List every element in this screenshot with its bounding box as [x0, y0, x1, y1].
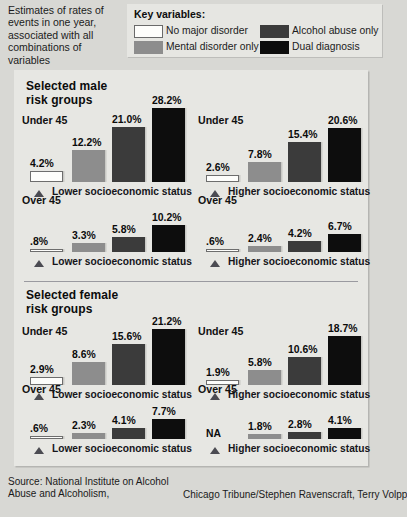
bar-group: Over 45.6%2.3%4.1%7.7%Lower socioeconomi…	[20, 377, 192, 459]
bars-row: .6%2.3%4.1%7.7%	[20, 383, 192, 439]
bar-value-label: 10.6%	[288, 344, 328, 355]
intro-text: Estimates of rates of events in one year…	[8, 4, 120, 66]
bar-value-label: 20.6%	[328, 115, 368, 126]
legend-title: Key variables:	[134, 8, 205, 20]
bar-value-label: 3.3%	[72, 230, 112, 241]
bar-no-major-disorder	[30, 249, 63, 252]
bar-slot-dual-diagnosis: 10.2%	[152, 194, 185, 252]
bar-mental-disorder-only	[248, 246, 281, 252]
bar-slot-no-major-disorder: 1.9%	[206, 313, 239, 385]
bar-slot-alcohol-abuse-only: 15.4%	[288, 104, 321, 182]
bar-slot-dual-diagnosis: 18.7%	[328, 313, 361, 385]
triangle-marker-icon	[210, 260, 220, 267]
bar-slot-mental-disorder-only: 7.8%	[248, 104, 281, 182]
bar-value-label: 2.4%	[248, 233, 288, 244]
bar-value-label: 15.6%	[112, 331, 152, 342]
bar-slot-no-major-disorder: .8%	[30, 194, 63, 252]
bar-value-label: .6%	[206, 236, 246, 247]
bar-alcohol-abuse-only	[112, 127, 145, 182]
bar-group: Under 452.6%7.8%15.4%20.6%Higher socioec…	[196, 98, 368, 202]
bar-mental-disorder-only	[72, 243, 105, 252]
bar-value-label: 7.8%	[248, 149, 288, 160]
bar-slot-dual-diagnosis: 4.1%	[328, 383, 361, 439]
bar-value-label: 4.1%	[328, 415, 368, 426]
bar-slot-dual-diagnosis: 28.2%	[152, 104, 185, 182]
triangle-marker-icon	[34, 447, 44, 454]
axis-caption: Lower socioeconomic status	[20, 443, 192, 457]
section-title-line1: Selected male	[26, 79, 107, 93]
bar-group: Under 454.2%12.2%21.0%28.2%Lower socioec…	[20, 98, 192, 202]
bars-row: 4.2%12.2%21.0%28.2%	[20, 104, 192, 182]
bar-slot-mental-disorder-only: 8.6%	[72, 313, 105, 385]
bar-value-label: 15.4%	[288, 129, 328, 140]
bar-slot-no-major-disorder: .6%	[206, 194, 239, 252]
bar-dual-diagnosis	[152, 225, 185, 252]
legend-swatch-dark	[260, 25, 289, 38]
bar-value-label: 1.8%	[248, 421, 288, 432]
bars-row: NA1.8%2.8%4.1%	[196, 383, 368, 439]
legend-swatch-black	[260, 41, 289, 54]
bar-value-na: NA	[206, 428, 221, 439]
bar-slot-alcohol-abuse-only: 2.8%	[288, 383, 321, 439]
axis-caption-label: Higher socioeconomic status	[228, 256, 370, 267]
axis-caption-label: Lower socioeconomic status	[52, 443, 192, 454]
legend-box: Key variables: No major disorder Mental …	[127, 4, 382, 57]
bar-slot-dual-diagnosis: 7.7%	[152, 383, 185, 439]
legend-label: Mental disorder only	[166, 40, 259, 53]
bar-value-label: 28.2%	[152, 95, 192, 106]
bar-slot-mental-disorder-only: 2.4%	[248, 194, 281, 252]
bar-alcohol-abuse-only	[112, 428, 145, 439]
bar-slot-dual-diagnosis: 21.2%	[152, 313, 185, 385]
source-note: Source: National Institute on Alcohol Ab…	[8, 476, 183, 500]
bar-group: Over 45.8%3.3%5.8%10.2%Lower socioeconom…	[20, 188, 192, 272]
bar-slot-alcohol-abuse-only: 15.6%	[112, 313, 145, 385]
bar-dual-diagnosis	[328, 128, 361, 182]
bar-group: Over 45NA1.8%2.8%4.1%Higher socioeconomi…	[196, 377, 368, 459]
bar-value-label: 5.8%	[112, 224, 152, 235]
bar-value-label: 2.6%	[206, 162, 246, 173]
bar-dual-diagnosis	[328, 234, 361, 252]
axis-caption: Higher socioeconomic status	[196, 443, 368, 457]
chart-panel: Selected male risk groups Selected femal…	[14, 70, 368, 466]
triangle-marker-icon	[34, 260, 44, 267]
footer-area: Source: National Institute on Alcohol Ab…	[0, 472, 391, 517]
bar-value-label: 2.3%	[72, 420, 112, 431]
bar-alcohol-abuse-only	[112, 237, 145, 252]
bar-alcohol-abuse-only	[288, 142, 321, 182]
axis-caption: Higher socioeconomic status	[196, 256, 368, 270]
bar-value-label: 21.2%	[152, 316, 192, 327]
bars-row: .8%3.3%5.8%10.2%	[20, 194, 192, 252]
bar-value-label: .8%	[30, 236, 70, 247]
bars-row: 1.9%5.8%10.6%18.7%	[196, 313, 368, 385]
bar-value-label: 12.2%	[72, 137, 112, 148]
bar-slot-mental-disorder-only: 3.3%	[72, 194, 105, 252]
bar-slot-mental-disorder-only: 12.2%	[72, 104, 105, 182]
bar-value-label: 21.0%	[112, 114, 152, 125]
bar-value-label: .6%	[30, 423, 70, 434]
bar-slot-dual-diagnosis: 20.6%	[328, 104, 361, 182]
legend-label: No major disorder	[166, 24, 248, 37]
header-area: Estimates of rates of events in one year…	[0, 0, 391, 66]
bar-value-label: 18.7%	[328, 323, 368, 334]
bar-slot-no-major-disorder: NA	[206, 383, 239, 439]
bar-value-label: 7.7%	[152, 406, 192, 417]
bar-dual-diagnosis	[152, 108, 185, 182]
bar-no-major-disorder	[30, 436, 63, 439]
bar-slot-alcohol-abuse-only: 21.0%	[112, 104, 145, 182]
bar-mental-disorder-only	[72, 150, 105, 182]
bar-slot-no-major-disorder: 4.2%	[30, 104, 63, 182]
bar-slot-dual-diagnosis: 6.7%	[328, 194, 361, 252]
bar-slot-mental-disorder-only: 5.8%	[248, 313, 281, 385]
section-divider	[24, 281, 358, 282]
bar-slot-no-major-disorder: .6%	[30, 383, 63, 439]
section-title-line1: Selected female	[26, 288, 118, 302]
bar-mental-disorder-only	[72, 433, 105, 439]
bar-dual-diagnosis	[328, 428, 361, 439]
bar-value-label: 2.9%	[30, 364, 70, 375]
bar-value-label: 6.7%	[328, 221, 368, 232]
bars-row: .6%2.4%4.2%6.7%	[196, 194, 368, 252]
legend-label: Alcohol abuse only	[292, 24, 378, 37]
axis-caption-label: Lower socioeconomic status	[52, 256, 192, 267]
legend-label: Dual diagnosis	[292, 40, 360, 53]
bar-slot-no-major-disorder: 2.9%	[30, 313, 63, 385]
